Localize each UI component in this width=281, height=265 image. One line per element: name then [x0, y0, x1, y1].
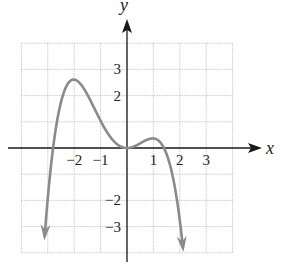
- x-tick-label: −2: [66, 152, 82, 168]
- y-tick-label: 3: [114, 61, 122, 77]
- y-tick-label: −2: [105, 192, 121, 208]
- x-tick-label: 3: [202, 152, 210, 168]
- x-axis-label: x: [265, 138, 274, 158]
- y-tick-label: 2: [114, 88, 122, 104]
- x-tick-label: 1: [150, 152, 158, 168]
- polynomial-graph: x y −2−112332−2−3: [0, 0, 281, 265]
- x-tick-label: −1: [93, 152, 109, 168]
- y-axis-label: y: [118, 0, 128, 15]
- x-tick-label: 2: [176, 152, 184, 168]
- y-tick-label: −3: [105, 219, 121, 235]
